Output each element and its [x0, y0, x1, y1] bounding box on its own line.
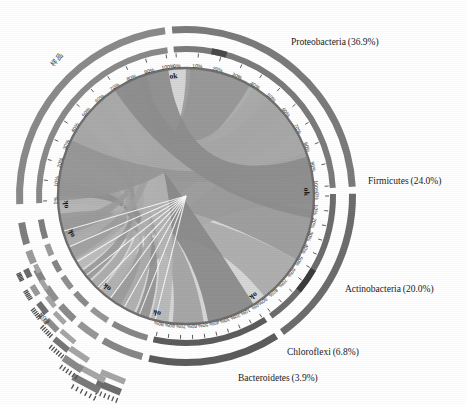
circos-canvas: 0%10%20%30%40%50%60%70%80%90%100%0%10%20…: [0, 0, 466, 404]
minor-block-hatch: [80, 389, 83, 394]
firmicutes-tick-label: 0%: [314, 192, 320, 200]
chord-diagram-figure: 0%10%20%30%40%50%60%70%80%90%100%0%10%20…: [0, 0, 466, 404]
tick-mark: [216, 332, 217, 336]
sector-ring-inner-minor-4[interactable]: [44, 243, 54, 256]
tick-mark: [315, 142, 319, 143]
firmicutes-tick-label: 10%: [312, 204, 319, 215]
sector-ring-outer-chloroflexi[interactable]: [102, 337, 144, 360]
tick-mark: [76, 104, 79, 107]
tick-mark: [146, 59, 147, 63]
tick-mark: [227, 329, 228, 333]
minor-block-hatch: [68, 371, 72, 376]
sector-ring-inner-chloroflexi[interactable]: [111, 321, 148, 341]
minor-block-hatch: [84, 391, 87, 396]
tick-mark: [220, 57, 221, 61]
minor-block-hatch: [99, 391, 102, 396]
tick-mark: [64, 121, 67, 123]
sector-ring-inner-minor-2[interactable]: [60, 275, 73, 290]
tick-mark: [249, 320, 251, 324]
sector-ring-outer-minor-5[interactable]: [18, 222, 30, 245]
minor-block-hatch: [115, 398, 118, 403]
minor-block-hatch: [51, 346, 55, 351]
minor-block-hatch: [65, 369, 69, 374]
tick-mark: [313, 253, 317, 255]
minor-sector-block[interactable]: [47, 329, 76, 359]
tick-mark: [305, 122, 308, 124]
phylum-label-chloroflexi: Chloroflexi (6.8%): [287, 347, 359, 358]
tick-mark: [318, 239, 322, 240]
minor-block-bar: [23, 268, 32, 279]
tick-mark: [239, 325, 241, 329]
minor-block-hatch: [93, 396, 96, 401]
sector-ring-outer-bacteroidetes[interactable]: [77, 321, 99, 340]
phylum-label-actinobacteria: Actinobacteria (20.0%): [345, 284, 434, 295]
axis-caption-upper-left: 样品: [49, 51, 65, 68]
tick-mark: [260, 314, 262, 317]
actinobacteria-tick-label: 60%: [186, 323, 197, 329]
minor-block-hatch: [56, 350, 60, 355]
tick-mark: [126, 66, 128, 70]
sector-highlight-proteobacteria: [211, 48, 227, 57]
sector-ring-inner-minor-3[interactable]: [51, 260, 62, 273]
tick-mark: [277, 88, 280, 91]
axis-caption-lower-left: 群落: [36, 310, 52, 327]
ok-boundary-marker: ok: [61, 199, 71, 208]
minor-block-hatch: [53, 348, 57, 353]
tick-mark: [240, 64, 242, 68]
sector-ring-inner-bacteroidetes[interactable]: [90, 307, 109, 323]
sector-ring-inner-minor-5[interactable]: [38, 219, 48, 239]
phylum-label-proteobacteria: Proteobacteria (36.9%): [291, 37, 379, 48]
tick-mark: [156, 332, 157, 336]
minor-block-hatch: [49, 345, 53, 350]
sector-ring-inner-minor-1[interactable]: [73, 291, 89, 307]
tick-mark: [48, 159, 52, 160]
minor-block-hatch: [75, 386, 78, 391]
tick-mark: [91, 89, 94, 92]
minor-block-hatch: [103, 393, 106, 398]
minor-block-bar: [30, 284, 41, 297]
sector-ring-outer-minor-4[interactable]: [25, 250, 36, 265]
minor-block-hatch: [59, 364, 63, 369]
sector-highlight-firmicutes: [296, 268, 316, 292]
minor-sector-block[interactable]: [23, 279, 49, 301]
samples-tick-label: 10%: [53, 176, 60, 187]
minor-block-hatch: [111, 396, 114, 401]
tick-mark: [321, 164, 325, 165]
ok-boundary-marker: ok: [302, 188, 311, 197]
tick-mark: [322, 225, 326, 226]
tick-mark: [204, 334, 205, 338]
minor-sector-block[interactable]: [16, 263, 42, 282]
minor-sector-block[interactable]: [57, 346, 90, 380]
minor-block-hatch: [89, 393, 92, 398]
minor-block-hatch: [107, 395, 110, 400]
phylum-label-firmicutes: Firmicutes (24.0%): [368, 176, 441, 187]
minor-block-hatch: [71, 384, 74, 389]
minor-block-bar: [39, 279, 49, 291]
phylum-label-bacteroidetes: Bacteroidetes (3.9%): [238, 373, 318, 384]
tick-mark: [268, 308, 270, 311]
tick-mark: [55, 140, 59, 142]
tick-mark: [260, 75, 262, 78]
minor-block-hatch: [62, 366, 66, 371]
tick-mark: [279, 299, 282, 302]
tick-mark: [292, 104, 295, 107]
tick-mark: [108, 76, 110, 79]
samples-tick-label: 0%: [52, 196, 58, 204]
tick-mark: [306, 266, 309, 268]
tick-mark: [166, 54, 167, 58]
proteobacteria-tick-label: 10%: [192, 62, 203, 69]
tick-mark: [298, 278, 301, 280]
chord-ribbons-group: [58, 68, 314, 324]
tick-mark: [289, 289, 292, 292]
actinobacteria-tick-label: 70%: [175, 323, 186, 329]
minor-block-hatch: [58, 352, 62, 357]
